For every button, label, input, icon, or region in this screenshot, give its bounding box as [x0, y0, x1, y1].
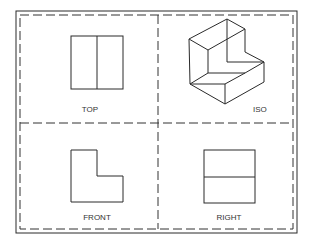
- viewport-iso[interactable]: ISO: [189, 19, 267, 114]
- viewport-front[interactable]: FRONT: [71, 150, 123, 222]
- viewport-label-right: RIGHT: [217, 213, 242, 222]
- front-view-shape: [71, 150, 123, 202]
- viewport-label-front: FRONT: [83, 213, 111, 222]
- right-view-shape: [204, 150, 255, 203]
- viewport-label-top: TOP: [82, 105, 98, 114]
- viewport-label-iso: ISO: [253, 105, 267, 114]
- viewport-top[interactable]: TOP: [71, 36, 123, 114]
- top-view-shape: [71, 36, 123, 89]
- dashed-viewport-borders: [20, 15, 293, 229]
- viewport-diagram: TOP ISO FRONT: [0, 0, 313, 247]
- iso-view-shape: [189, 19, 264, 104]
- viewport-right[interactable]: RIGHT: [204, 150, 255, 222]
